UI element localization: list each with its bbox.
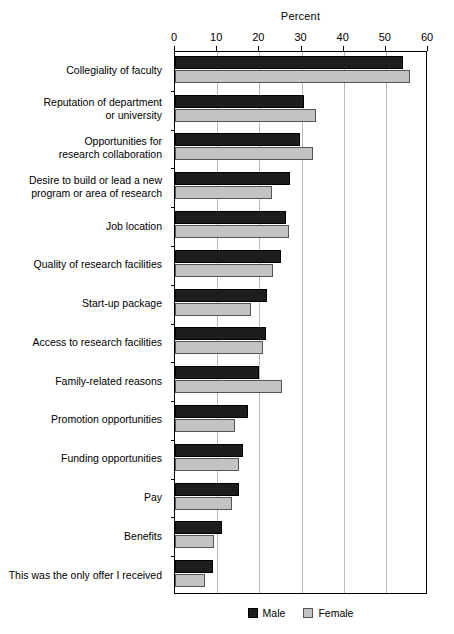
category-divider-tick	[171, 246, 175, 247]
bar-female	[175, 264, 273, 277]
bar-female	[175, 535, 214, 548]
x-tick-label-0: 0	[171, 31, 177, 43]
bar-group	[175, 401, 426, 440]
category-label: Start-up package	[0, 297, 162, 310]
bar-group	[175, 324, 426, 363]
x-tick-label-60: 60	[421, 31, 433, 43]
category-divider-tick	[171, 440, 175, 441]
bar-male	[175, 444, 243, 457]
category-divider-tick	[171, 130, 175, 131]
bar-group	[175, 130, 426, 169]
category-label: Quality of research facilities	[0, 258, 162, 271]
category-divider-tick	[171, 207, 175, 208]
male-swatch-icon	[248, 608, 258, 618]
bar-male	[175, 560, 213, 573]
category-label: Opportunities for research collaboration	[0, 135, 162, 161]
bar-rows	[175, 52, 426, 593]
bar-female	[175, 497, 232, 510]
category-label: Reputation of department or university	[0, 96, 162, 122]
x-tick-label-50: 50	[379, 31, 391, 43]
bar-group	[175, 207, 426, 246]
bar-group	[175, 168, 426, 207]
bar-group	[175, 246, 426, 285]
x-axis-title: Percent	[174, 10, 427, 22]
bar-female	[175, 574, 205, 587]
legend-item-female[interactable]: Female	[303, 607, 353, 619]
plot-area	[174, 51, 427, 594]
bar-group	[175, 556, 426, 595]
bar-male	[175, 327, 266, 340]
category-label: Pay	[0, 491, 162, 504]
bar-female	[175, 109, 316, 122]
category-labels: Collegiality of facultyReputation of dep…	[0, 51, 170, 594]
category-divider-tick	[171, 91, 175, 92]
category-divider-tick	[171, 168, 175, 169]
category-label: Benefits	[0, 529, 162, 542]
category-label: This was the only offer I received	[0, 568, 162, 581]
category-divider-tick	[171, 285, 175, 286]
bar-female	[175, 70, 410, 83]
bar-female	[175, 147, 313, 160]
legend-label: Female	[318, 607, 353, 619]
x-tick-label-20: 20	[252, 31, 264, 43]
x-tick-label-40: 40	[337, 31, 349, 43]
category-divider-tick	[171, 362, 175, 363]
bar-chart: Percent 0102030405060 Collegiality of fa…	[0, 0, 454, 634]
x-tick-mark-60	[427, 46, 428, 51]
category-divider-tick	[171, 401, 175, 402]
bar-group	[175, 517, 426, 556]
bar-male	[175, 405, 248, 418]
bar-male	[175, 133, 300, 146]
bar-group	[175, 285, 426, 324]
category-divider-tick	[171, 479, 175, 480]
bar-male	[175, 95, 304, 108]
bar-group	[175, 362, 426, 401]
female-swatch-icon	[303, 608, 313, 618]
bar-male	[175, 250, 281, 263]
category-label: Promotion opportunities	[0, 413, 162, 426]
category-divider-tick	[171, 324, 175, 325]
bar-group	[175, 91, 426, 130]
bar-male	[175, 366, 259, 379]
chart-legend: MaleFemale	[174, 607, 427, 619]
bar-male	[175, 289, 267, 302]
bar-female	[175, 458, 239, 471]
bar-group	[175, 479, 426, 518]
bar-male	[175, 172, 290, 185]
bar-female	[175, 341, 263, 354]
category-divider-tick	[171, 556, 175, 557]
x-tick-label-30: 30	[294, 31, 306, 43]
category-divider-tick	[171, 517, 175, 518]
category-label: Job location	[0, 219, 162, 232]
x-axis-tick-labels: 0102030405060	[0, 31, 454, 45]
bar-female	[175, 380, 282, 393]
category-label: Collegiality of faculty	[0, 64, 162, 77]
category-label: Funding opportunities	[0, 452, 162, 465]
legend-label: Male	[263, 607, 286, 619]
category-label: Family-related reasons	[0, 374, 162, 387]
bar-female	[175, 225, 289, 238]
bar-male	[175, 56, 403, 69]
bar-group	[175, 52, 426, 91]
bar-male	[175, 211, 286, 224]
bar-female	[175, 186, 272, 199]
bar-group	[175, 440, 426, 479]
bar-male	[175, 521, 222, 534]
category-label: Desire to build or lead a new program or…	[0, 174, 162, 200]
bar-female	[175, 419, 235, 432]
x-tick-label-10: 10	[210, 31, 222, 43]
bar-female	[175, 303, 251, 316]
legend-item-male[interactable]: Male	[248, 607, 286, 619]
category-label: Access to research facilities	[0, 335, 162, 348]
bar-male	[175, 483, 239, 496]
